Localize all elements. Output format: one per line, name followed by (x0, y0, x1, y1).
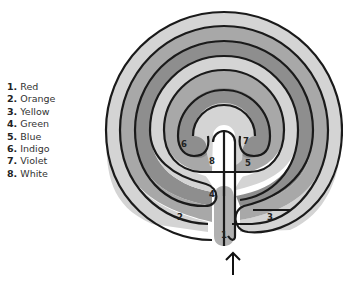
label-1: 1 (221, 230, 227, 240)
label-6: 6 (181, 139, 187, 149)
label-5: 5 (245, 158, 251, 168)
label-8: 8 (209, 156, 215, 166)
label-3: 3 (267, 212, 273, 222)
label-2: 2 (177, 212, 183, 222)
labyrinth-diagram: 1 2 3 4 5 6 7 8 (0, 0, 343, 283)
label-7: 7 (243, 136, 249, 146)
label-4: 4 (209, 189, 215, 199)
up-arrow-icon (226, 253, 240, 275)
